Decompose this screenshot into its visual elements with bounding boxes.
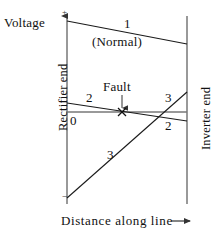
curve-3-right-label: 3 (165, 91, 172, 104)
x-axis-title: Distance along line (61, 214, 173, 227)
curve-1-label: 1 (124, 17, 131, 30)
origin-zero-label: 0 (70, 114, 77, 127)
y-axis-negative-sign: − (62, 192, 68, 202)
curve-2-right-label: 2 (165, 119, 172, 132)
curve-2-left-label: 2 (86, 91, 93, 104)
y-axis-title: Voltage (4, 16, 45, 29)
curve-3-line (67, 92, 187, 198)
y-axis-positive-sign: + (62, 8, 67, 17)
normal-annotation-label: (Normal) (92, 35, 142, 48)
inverter-end-label: Inverter end (200, 87, 213, 150)
fault-annotation-label: Fault (103, 80, 131, 93)
voltage-profile-figure: Voltage + − Rectifier end Inverter end 1… (0, 0, 214, 239)
curve-3-lower-label: 3 (107, 148, 114, 161)
rectifier-end-label: Rectifier end (57, 64, 70, 132)
